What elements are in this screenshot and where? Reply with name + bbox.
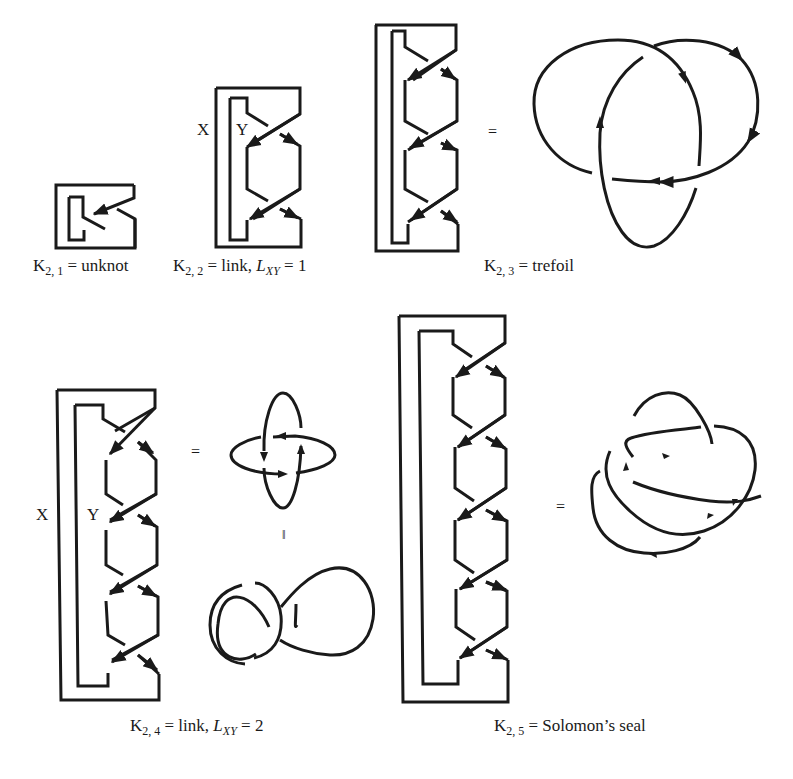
linking-number-value: = 1 [280,256,307,275]
parallel-equals-sign: ‖ [282,527,286,543]
linking-number-letter: L [256,256,265,275]
equals-sign: = [488,123,497,141]
linking-number-value: = 2 [237,716,264,735]
caption-k23: K2, 3 = trefoil [484,256,574,279]
caption-symbol: K [173,256,185,275]
braid-k21 [56,185,135,248]
strand-label-x: X [36,505,48,525]
hopf-like-link-upper [231,393,335,508]
caption-k24: K2, 4 = link, LXY = 2 [130,716,263,739]
caption-k25: K2, 5 = Solomon’s seal [494,716,646,739]
braid-k23 [375,25,458,251]
caption-subscript: 2, 3 [496,264,514,278]
caption-symbol: K [130,716,142,735]
strand-label-y: Y [87,505,99,525]
linking-number-letter: L [213,716,222,735]
caption-text: = unknot [63,256,128,275]
caption-subscript: 2, 4 [142,724,160,738]
caption-symbol: K [33,256,45,275]
caption-text: = trefoil [514,256,574,275]
caption-text: = Solomon’s seal [524,716,646,735]
braid-k24 [57,390,159,700]
caption-symbol: K [484,256,496,275]
caption-text: = link, [203,256,256,275]
link-k24-lower [210,568,374,664]
braid-k25 [399,316,508,702]
linking-number-subscript: XY [266,264,280,278]
equals-sign: = [191,443,200,461]
equals-sign: = [556,498,565,516]
trefoil-knot [534,40,758,247]
linking-number-subscript: XY [223,724,237,738]
braid-k22 [216,88,301,247]
solomons-seal-arrows [623,453,738,558]
caption-subscript: 2, 2 [185,264,203,278]
caption-text: = link, [160,716,213,735]
caption-k21: K2, 1 = unknot [33,256,129,279]
knot-figure [0,0,793,779]
caption-subscript: 2, 1 [45,264,63,278]
caption-subscript: 2, 5 [506,724,524,738]
caption-k22: K2, 2 = link, LXY = 1 [173,256,306,279]
solomons-seal-knot [592,393,761,554]
strand-label-x: X [197,120,209,140]
linking-number-symbol: LXY [213,716,236,735]
linking-number-symbol: LXY [256,256,279,275]
strand-label-y: Y [236,120,248,140]
caption-symbol: K [494,716,506,735]
